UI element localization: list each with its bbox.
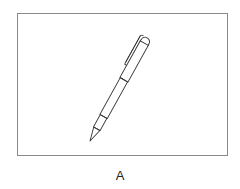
pen-icon <box>0 0 240 189</box>
figure-label: A <box>0 168 240 183</box>
